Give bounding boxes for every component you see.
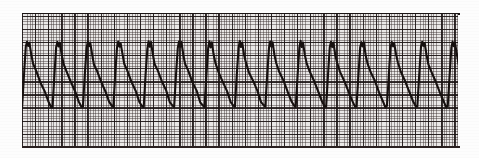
ecg-strip — [22, 14, 458, 148]
ecg-screenshot: ECG Rhythm Strip — [0, 0, 479, 158]
ecg-trace-path — [22, 41, 458, 107]
ecg-trace — [22, 14, 458, 148]
strip-bottom-border — [22, 146, 460, 148]
